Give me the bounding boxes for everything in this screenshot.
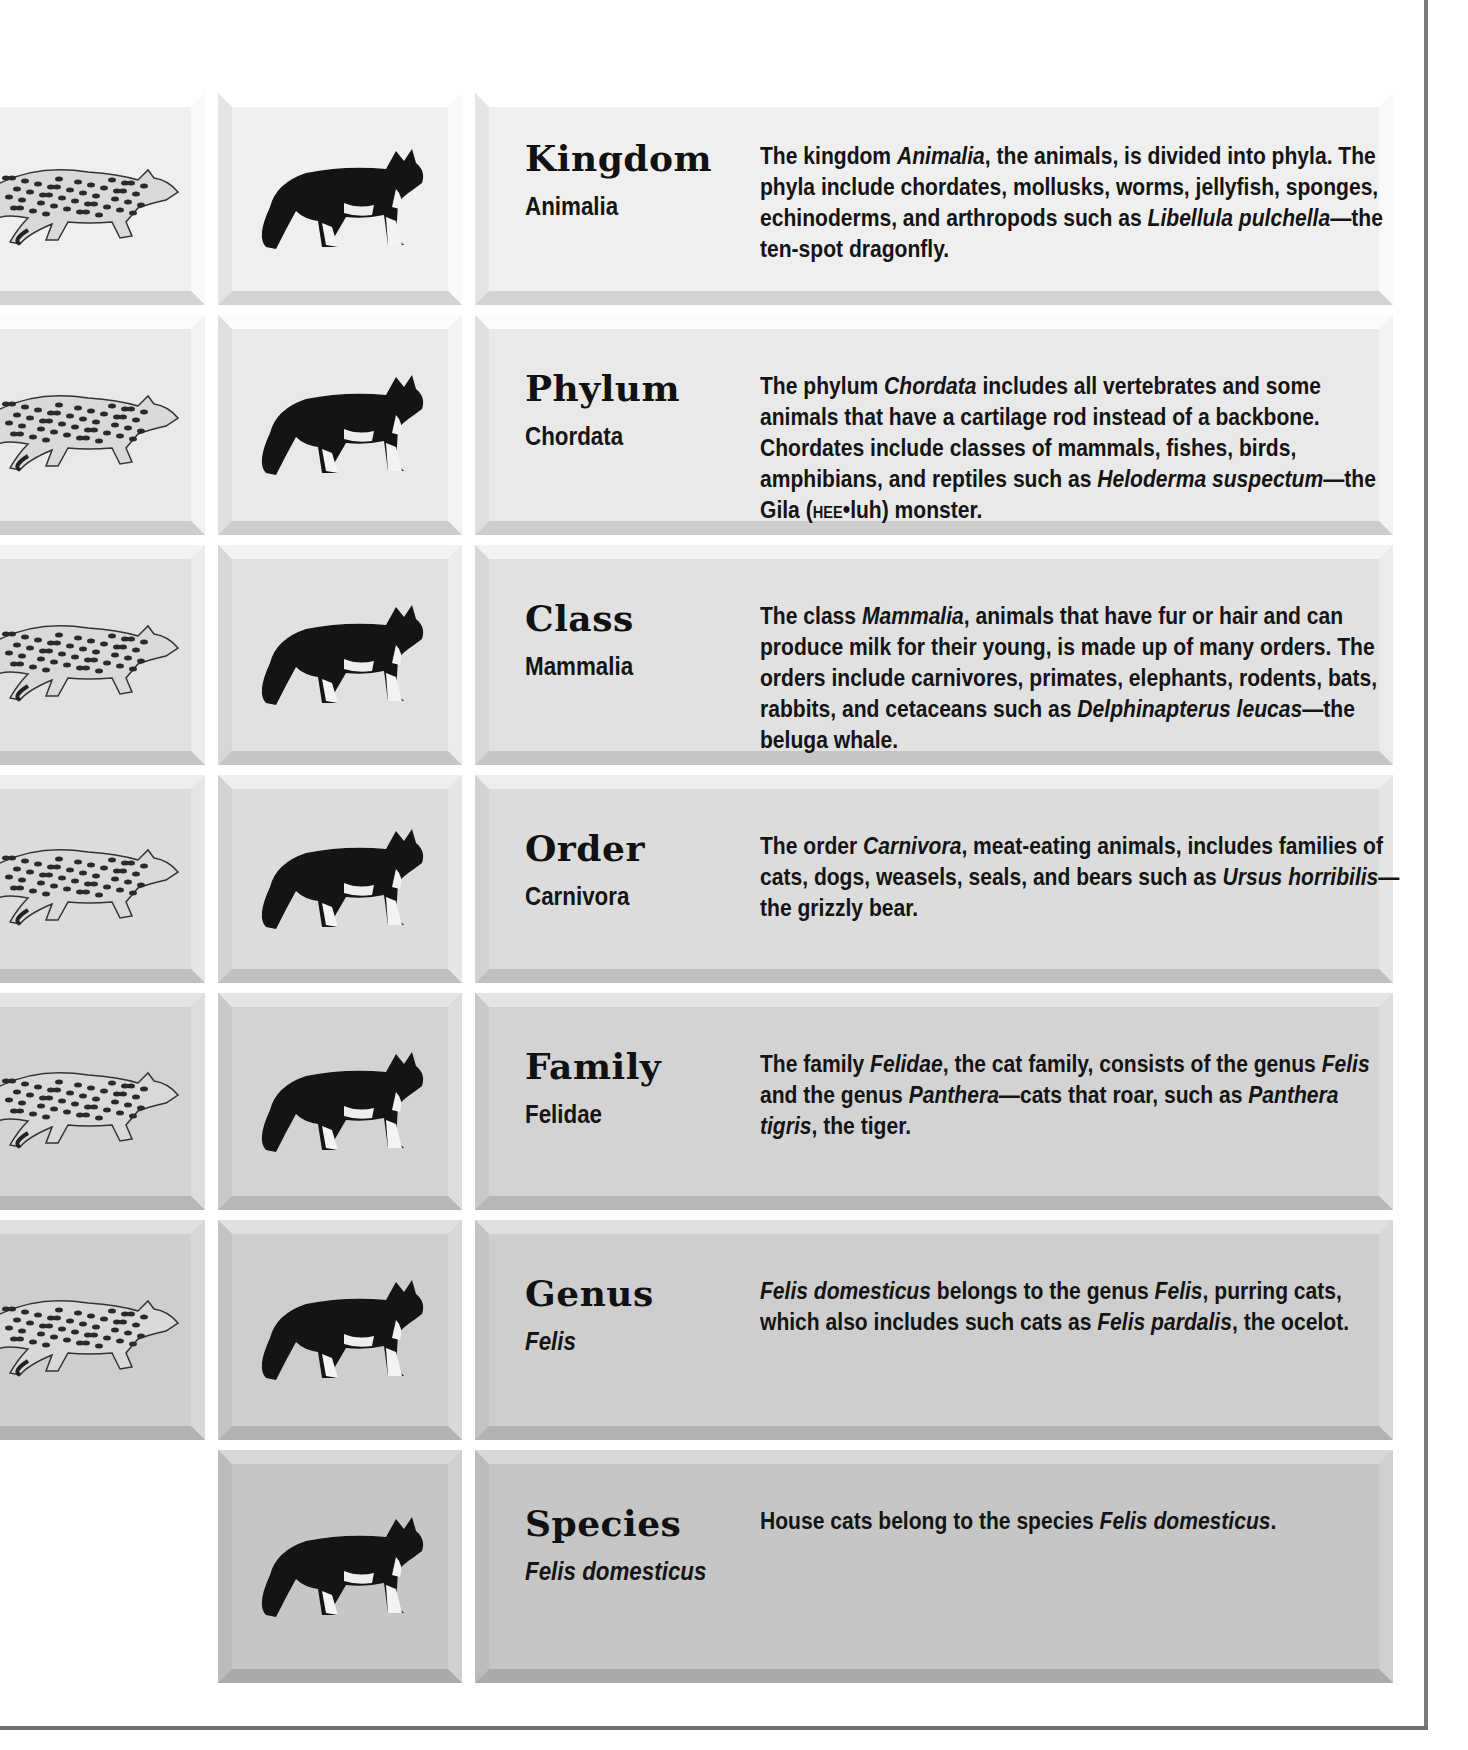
rank-title: Family — [525, 1045, 661, 1087]
bevel-top-edge — [475, 775, 1393, 789]
bevel-top-edge — [218, 775, 462, 789]
ocelot-illustration-icon — [0, 1275, 198, 1389]
rank-latin-name: Mammalia — [525, 651, 633, 682]
scientific-name: Libellula pulchella — [1148, 204, 1331, 231]
scientific-name: Panthera — [909, 1081, 999, 1108]
bevel-right-edge — [448, 545, 462, 765]
ocelot-tile — [0, 545, 205, 765]
bevel-bottom-edge — [218, 521, 462, 535]
house-cat-illustration-icon — [246, 137, 436, 261]
description-text: belongs to the genus — [931, 1277, 1155, 1304]
house-cat-illustration-icon — [246, 1505, 436, 1629]
house-cat-tile — [218, 545, 462, 765]
scientific-name: Delphinapterus leucas — [1077, 695, 1302, 722]
bevel-right-edge — [448, 315, 462, 535]
bevel-bottom-edge — [0, 751, 205, 765]
rank-description: The order Carnivora, meat-eating animals… — [760, 830, 1401, 923]
rank-latin-name: Chordata — [525, 421, 623, 452]
description-text: , the tiger. — [812, 1112, 912, 1139]
bevel-bottom-edge — [475, 1196, 1393, 1210]
bevel-right-edge — [448, 93, 462, 305]
bevel-bottom-edge — [218, 751, 462, 765]
rank-description: Felis domesticus belongs to the genus Fe… — [760, 1275, 1401, 1337]
bevel-top-edge — [475, 93, 1393, 107]
ocelot-illustration-icon — [0, 1047, 198, 1161]
rank-description: House cats belong to the species Felis d… — [760, 1505, 1401, 1536]
house-cat-illustration-icon — [246, 1040, 436, 1164]
description-tile: PhylumChordataThe phylum Chordata includ… — [475, 315, 1393, 535]
bevel-top-edge — [475, 993, 1393, 1007]
bevel-top-edge — [0, 775, 205, 789]
bevel-left-edge — [475, 775, 489, 983]
bevel-left-edge — [218, 1220, 232, 1440]
bevel-bottom-edge — [218, 1426, 462, 1440]
bevel-top-edge — [475, 1220, 1393, 1234]
description-text: , the cat family, consists of the genus — [943, 1050, 1322, 1077]
scientific-name: Felis pardalis — [1097, 1308, 1232, 1335]
scientific-name: Animalia — [897, 142, 985, 169]
rank-title: Species — [525, 1502, 681, 1544]
house-cat-illustration-icon — [246, 593, 436, 717]
ocelot-tile — [0, 993, 205, 1210]
description-tile: SpeciesFelis domesticusHouse cats belong… — [475, 1450, 1393, 1683]
bevel-left-edge — [218, 1450, 232, 1683]
ocelot-tile — [0, 315, 205, 535]
ocelot-tile — [0, 1220, 205, 1440]
scientific-name: Felis — [1155, 1277, 1203, 1304]
bevel-bottom-edge — [475, 291, 1393, 305]
house-cat-tile — [218, 775, 462, 983]
description-tile: ClassMammaliaThe class Mammalia, animals… — [475, 545, 1393, 765]
scientific-name: Mammalia — [862, 602, 964, 629]
bevel-top-edge — [218, 315, 462, 329]
scientific-name: Carnivora — [863, 832, 961, 859]
ocelot-tile — [0, 775, 205, 983]
description-text: . — [1271, 1507, 1277, 1534]
description-text: The class — [760, 602, 862, 629]
bevel-left-edge — [218, 993, 232, 1210]
bevel-left-edge — [475, 1450, 489, 1683]
scientific-name: Felis domesticus — [1100, 1507, 1271, 1534]
bevel-top-edge — [0, 1220, 205, 1234]
rank-latin-name: Felis — [525, 1326, 576, 1357]
frame-border-bottom — [0, 1726, 1428, 1730]
rank-description: The class Mammalia, animals that have fu… — [760, 600, 1401, 755]
bevel-top-edge — [0, 993, 205, 1007]
rank-latin-name: Carnivora — [525, 881, 629, 912]
ocelot-illustration-icon — [0, 600, 198, 714]
scientific-name: Felis domesticus — [760, 1277, 931, 1304]
bevel-top-edge — [218, 1220, 462, 1234]
description-text: HEE — [813, 503, 843, 522]
bevel-left-edge — [218, 775, 232, 983]
rank-description: The phylum Chordata includes all vertebr… — [760, 370, 1401, 528]
bevel-bottom-edge — [0, 1426, 205, 1440]
bevel-bottom-edge — [218, 291, 462, 305]
description-tile: GenusFelisFelis domesticus belongs to th… — [475, 1220, 1393, 1440]
bevel-left-edge — [475, 93, 489, 305]
bevel-right-edge — [448, 1220, 462, 1440]
scientific-name: Ursus horribilis — [1223, 863, 1379, 890]
ocelot-tile — [0, 93, 205, 305]
house-cat-tile — [218, 315, 462, 535]
bevel-bottom-edge — [475, 1426, 1393, 1440]
bevel-top-edge — [475, 315, 1393, 329]
bevel-left-edge — [218, 545, 232, 765]
bevel-bottom-edge — [218, 969, 462, 983]
rank-title: Class — [525, 597, 634, 639]
bevel-left-edge — [218, 315, 232, 535]
bevel-top-edge — [218, 545, 462, 559]
bevel-top-edge — [218, 93, 462, 107]
bevel-left-edge — [475, 315, 489, 535]
rank-title: Phylum — [525, 367, 680, 409]
bevel-right-edge — [448, 1450, 462, 1683]
bevel-top-edge — [218, 993, 462, 1007]
bevel-bottom-edge — [218, 1196, 462, 1210]
bevel-bottom-edge — [0, 291, 205, 305]
description-tile: OrderCarnivoraThe order Carnivora, meat-… — [475, 775, 1393, 983]
frame-border-right — [1424, 0, 1428, 1730]
bevel-bottom-edge — [0, 969, 205, 983]
ocelot-illustration-icon — [0, 370, 198, 484]
rank-latin-name: Felis domesticus — [525, 1556, 706, 1587]
description-text: The family — [760, 1050, 870, 1077]
bevel-top-edge — [475, 1450, 1393, 1464]
rank-title: Kingdom — [525, 137, 712, 179]
